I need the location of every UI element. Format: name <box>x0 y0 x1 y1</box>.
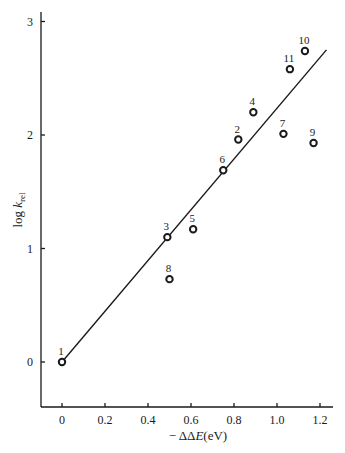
point-label: 4 <box>250 95 256 107</box>
point-label: 8 <box>166 262 172 274</box>
data-point-10: 10 <box>298 34 310 54</box>
circle-marker-icon <box>59 359 65 365</box>
data-point-4: 4 <box>250 95 257 115</box>
data-point-2: 2 <box>235 123 242 143</box>
circle-marker-icon <box>287 66 293 72</box>
data-point-7: 7 <box>280 117 287 137</box>
x-tick-label: 1.0 <box>270 413 285 427</box>
point-label: 7 <box>280 117 286 129</box>
point-label: 9 <box>310 126 316 138</box>
x-axis-title-var: E <box>194 428 203 443</box>
point-label: 10 <box>298 34 310 46</box>
x-axis-title-unit: (eV) <box>203 428 227 443</box>
data-points: 1234567891011 <box>58 34 316 365</box>
circle-marker-icon <box>220 167 226 173</box>
data-point-9: 9 <box>310 126 317 146</box>
y-axis-title: log krel <box>10 192 27 228</box>
point-label: 6 <box>220 153 226 165</box>
y-axis-title-main: log <box>10 208 25 228</box>
x-tick-label: 0.2 <box>98 413 113 427</box>
circle-marker-icon <box>166 276 172 282</box>
data-point-11: 11 <box>284 52 295 72</box>
y-axis-title-sub: rel <box>17 192 27 202</box>
y-tick-label: 0 <box>27 355 33 369</box>
y-tick-label: 3 <box>27 15 33 29</box>
y-tick-label: 1 <box>27 242 33 256</box>
y-ticks: 0123 <box>27 15 45 370</box>
data-point-1: 1 <box>58 345 65 365</box>
x-axis-title-prefix: − ΔΔ <box>169 428 196 443</box>
data-point-8: 8 <box>166 262 173 282</box>
x-tick-label: 0.4 <box>141 413 156 427</box>
point-label: 5 <box>189 212 195 224</box>
data-point-3: 3 <box>164 220 171 240</box>
x-tick-label: 1.2 <box>313 413 328 427</box>
circle-marker-icon <box>164 234 170 240</box>
x-axis-title: − ΔΔE(eV) <box>169 428 227 443</box>
circle-marker-icon <box>250 109 256 115</box>
y-tick-label: 2 <box>27 128 33 142</box>
circle-marker-icon <box>310 140 316 146</box>
point-label: 2 <box>235 123 241 135</box>
x-tick-label: 0.8 <box>227 413 242 427</box>
circle-marker-icon <box>235 136 241 142</box>
point-label: 11 <box>284 52 295 64</box>
scatter-chart: 00.20.40.60.81.01.2 0123 1234567891011 −… <box>0 0 345 453</box>
circle-marker-icon <box>302 48 308 54</box>
data-point-5: 5 <box>189 212 196 232</box>
circle-marker-icon <box>190 226 196 232</box>
x-tick-label: 0.6 <box>184 413 199 427</box>
point-label: 3 <box>164 220 170 232</box>
point-label: 1 <box>58 345 64 357</box>
svg-text:log krel: log krel <box>10 192 27 228</box>
x-tick-label: 0 <box>59 413 65 427</box>
regression-line <box>62 50 326 362</box>
data-point-6: 6 <box>220 153 227 173</box>
circle-marker-icon <box>280 131 286 137</box>
